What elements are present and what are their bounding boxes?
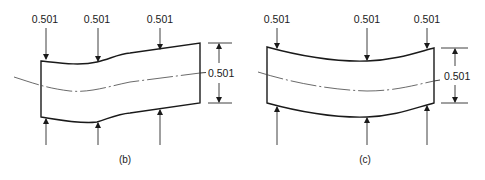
- load-label-c-1: 0.501: [264, 13, 290, 25]
- load-label-b-1: 0.501: [32, 13, 58, 25]
- diagram-canvas: 0.501 0.501 0.501 0.501 (b) 0.501 0.501 …: [0, 0, 485, 180]
- beam-body-c: [267, 47, 434, 117]
- figure-c: 0.501 0.501 0.501 0.501 (c): [258, 13, 470, 165]
- load-label-b-3: 0.501: [147, 13, 173, 25]
- thickness-dimension-c: 0.501: [441, 48, 470, 103]
- beam-body-b: [41, 43, 200, 123]
- load-label-c-2: 0.501: [354, 13, 380, 25]
- centerline-b-ext: [200, 73, 206, 74]
- thickness-dimension-b: 0.501: [208, 43, 234, 103]
- centerline-c-ext: [434, 80, 440, 81]
- thickness-label-c: 0.501: [444, 70, 470, 82]
- load-label-c-3: 0.501: [414, 13, 440, 25]
- caption-b: (b): [119, 154, 131, 165]
- thickness-label-b: 0.501: [208, 67, 234, 79]
- caption-c: (c): [359, 154, 371, 165]
- load-label-b-2: 0.501: [84, 13, 110, 25]
- figure-b: 0.501 0.501 0.501 0.501 (b): [14, 13, 234, 165]
